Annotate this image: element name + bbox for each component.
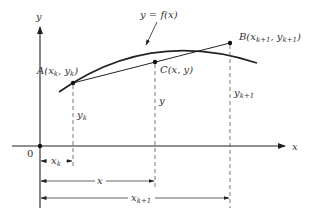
point-b bbox=[228, 41, 232, 45]
secant-line bbox=[73, 43, 230, 83]
height-yk1: yk+1 bbox=[233, 87, 254, 100]
origin-point bbox=[38, 144, 42, 148]
point-a bbox=[71, 81, 75, 85]
height-y: y bbox=[158, 95, 165, 106]
y-axis-label: y bbox=[35, 11, 42, 22]
function-curve bbox=[59, 51, 257, 92]
height-yk: yk bbox=[76, 109, 87, 122]
dim-xk1-label: xk+1 bbox=[131, 192, 151, 205]
curve-label: y = f(x) bbox=[139, 9, 178, 20]
curve-label-pointer bbox=[146, 22, 157, 45]
dim-x-label: x bbox=[97, 175, 103, 186]
point-c bbox=[153, 60, 157, 64]
point-b-label: B(xk+1, yk+1) bbox=[238, 31, 301, 44]
point-a-label: A(xk, yk) bbox=[36, 65, 78, 78]
point-c-label: C(x, y) bbox=[160, 64, 193, 75]
dim-xk-label: xk bbox=[51, 155, 61, 168]
linear-interpolation-diagram: y x 0 y = f(x) A(xk, yk) C(x, y) B(xk+1,… bbox=[0, 0, 310, 218]
x-axis-label: x bbox=[292, 141, 298, 152]
origin-label: 0 bbox=[27, 148, 33, 159]
